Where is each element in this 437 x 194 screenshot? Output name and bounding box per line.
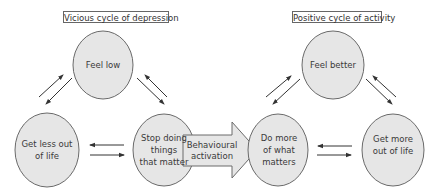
node-get-less-out-of-life-label: Get less out of life <box>15 113 79 187</box>
arrow-down-left-icon <box>46 78 72 104</box>
node-do-more-label: Do more of what matters <box>250 114 308 186</box>
cycle-diagram: Vicious cycle of depression Positive cyc… <box>0 0 437 194</box>
node-get-more-out-of-life-label: Get more out of life <box>362 114 424 176</box>
positive-cycle-title: Positive cycle of activity <box>292 11 382 23</box>
behavioural-activation-label: Behavioural activation <box>183 135 241 166</box>
arrow-down-left-icon <box>273 79 300 104</box>
arrow-up-right-icon <box>39 75 63 97</box>
arrow-down-right-icon <box>137 78 164 104</box>
arrow-up-right-icon <box>266 76 291 97</box>
arrow-up-left-icon <box>373 76 396 97</box>
vicious-cycle-title: Vicious cycle of depression <box>63 11 169 23</box>
node-feel-better-label: Feel better <box>302 31 364 99</box>
arrow-up-left-icon <box>145 75 167 97</box>
arrow-down-right-icon <box>366 79 392 104</box>
node-feel-low-label: Feel low <box>73 31 133 99</box>
